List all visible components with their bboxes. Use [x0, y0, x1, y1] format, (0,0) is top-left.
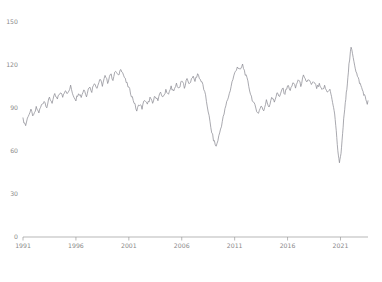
line-chart-plot: 0306090120150 19911996200120062011201620… [0, 0, 382, 282]
chart-container: 0306090120150 19911996200120062011201620… [0, 0, 382, 282]
x-tick-label: 2006 [174, 242, 190, 249]
x-tick-label: 2001 [121, 242, 137, 249]
x-tick-label: 1996 [68, 242, 84, 249]
x-axis-tick-marks [23, 237, 340, 241]
y-tick-label: 60 [10, 147, 18, 154]
y-tick-label: 120 [6, 61, 18, 68]
y-tick-label: 30 [10, 190, 18, 197]
y-tick-label: 90 [10, 104, 18, 111]
x-tick-label: 2021 [333, 242, 349, 249]
y-tick-label: 0 [14, 233, 18, 240]
x-axis-tick-labels: 1991199620012006201120162021 [15, 242, 348, 249]
data-series-line [23, 47, 368, 163]
x-tick-label: 2011 [227, 242, 243, 249]
y-axis-tick-labels: 0306090120150 [6, 18, 18, 240]
y-tick-label: 150 [6, 18, 18, 25]
x-tick-label: 2016 [280, 242, 296, 249]
x-tick-label: 1991 [15, 242, 31, 249]
